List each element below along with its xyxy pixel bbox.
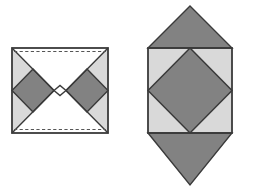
figure-canvas — [0, 0, 253, 191]
top-dark-triangle — [148, 6, 232, 48]
bottom-dark-triangle — [148, 133, 232, 185]
right-figure — [148, 6, 232, 185]
left-figure — [12, 48, 108, 133]
figures-svg — [0, 0, 253, 191]
